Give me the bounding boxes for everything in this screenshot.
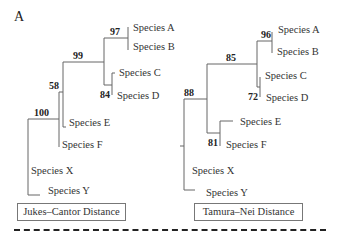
taxon-label: Species A [133,22,175,33]
taxon-label: Species F [62,139,103,150]
method-label-right: Tamura–Nei Distance [194,203,303,221]
bootstrap-84: 84 [100,89,110,100]
taxon-label: Species E [240,116,281,127]
right-tree: 96 85 72 88 81 Species A Species B Speci… [180,24,320,198]
taxon-label: Species Y [206,187,248,198]
bootstrap-72: 72 [248,91,258,102]
left-tree: 97 99 84 58 100 Species A Species B Spec… [28,22,175,196]
taxon-label: Species A [278,24,320,35]
taxon-label: Species X [31,165,74,176]
taxon-label: Species B [133,41,175,52]
taxon-label: Species Y [48,185,90,196]
root-branch [28,119,40,195]
bootstrap-96: 96 [261,29,271,40]
bootstrap-88: 88 [184,87,194,98]
taxon-label: Species D [117,90,160,101]
bootstrap-81: 81 [208,137,218,148]
bootstrap-99: 99 [73,50,83,61]
taxon-label: Species E [69,117,110,128]
method-label-left: Jukes–Cantor Distance [17,203,126,221]
taxon-label: Species X [192,165,235,176]
taxon-label: Species F [226,139,267,150]
bootstrap-100: 100 [34,107,49,118]
bootstrap-97: 97 [110,26,120,37]
dashed-divider [14,229,326,231]
bootstrap-85: 85 [226,52,236,63]
taxon-label: Species B [277,46,319,57]
taxon-label: Species C [119,67,161,78]
taxon-label: Species C [265,70,307,81]
taxon-label: Species D [266,92,309,103]
panel-label: A [14,9,25,24]
bootstrap-58: 58 [49,80,59,91]
